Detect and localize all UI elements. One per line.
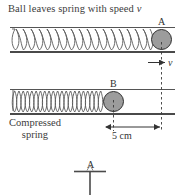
figure-title-speed-symbol: v	[137, 3, 142, 14]
relaxed-spring-coils	[10, 27, 155, 53]
distance-label: 5 cm	[112, 130, 132, 141]
figure-title: Ball leaves spring with speed v	[8, 3, 141, 14]
bottom-point-a-label: A	[87, 159, 94, 170]
ball-b	[103, 91, 124, 112]
ball-a-label: A	[158, 16, 165, 27]
compressed-spring-caption: Compressedspring	[9, 117, 61, 141]
spring-ball-physics-figure: Ball leaves spring with speed v A B Comp…	[0, 0, 183, 195]
ball-b-label: B	[110, 78, 117, 89]
ball-a	[151, 29, 172, 50]
caption-line-2: spring	[9, 129, 61, 141]
velocity-label: v	[168, 57, 172, 68]
compressed-spring-track	[10, 89, 175, 115]
compressed-spring-coils	[10, 89, 106, 115]
figure-title-text: Ball leaves spring with speed	[8, 3, 137, 14]
caption-line-1: Compressed	[9, 117, 61, 128]
